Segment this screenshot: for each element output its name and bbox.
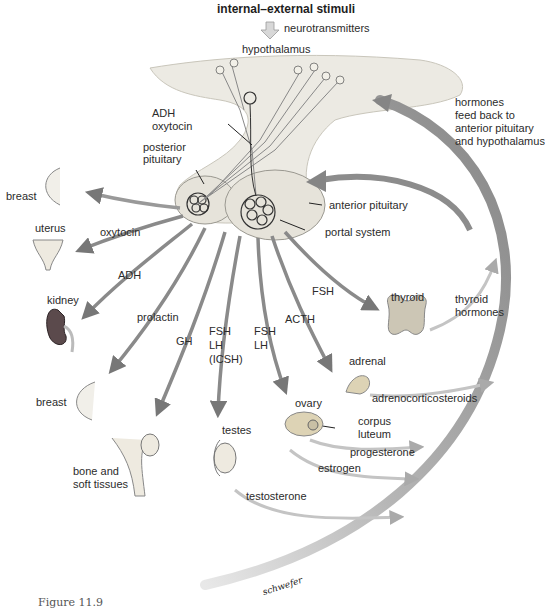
acth-label: ACTH — [285, 313, 315, 326]
feedback-label-3: anterior pituitary — [455, 122, 534, 135]
diagram-title: internal–external stimuli — [217, 3, 355, 16]
adrenal-label: adrenal — [349, 355, 386, 368]
breast-lower-organ — [77, 382, 95, 420]
fsh-thyroid-label: FSH — [312, 285, 334, 298]
kidney-label: kidney — [47, 294, 79, 307]
fsh-male-label: FSH — [209, 325, 231, 338]
neurotransmitters-label: neurotransmitters — [284, 22, 370, 35]
testes-organ — [214, 440, 236, 476]
feedback-label-2: feed back to — [455, 109, 515, 122]
adh-label: ADH — [152, 107, 175, 120]
adrenocorticosteroids-label: adrenocorticosteroids — [372, 392, 477, 405]
hypothalamus-label: hypothalamus — [242, 43, 311, 56]
anterior-pituitary-label: anterior pituitary — [329, 199, 408, 212]
testes-label: testes — [222, 424, 251, 437]
estrogen-label: estrogen — [318, 462, 361, 475]
bone-label-2: soft tissues — [73, 478, 128, 491]
breast-upper-organ — [46, 168, 60, 205]
adh-hormone-label: ADH — [118, 269, 141, 282]
ovary-label: ovary — [295, 397, 322, 410]
prolactin-label: prolactin — [137, 311, 179, 324]
feedback-label-1: hormones — [455, 96, 504, 109]
kidney-organ — [47, 309, 73, 352]
corpus-label: corpus — [358, 415, 391, 428]
pituitary-label: pituitary — [143, 153, 182, 166]
oxytocin-label: oxytocin — [152, 120, 192, 133]
feedback-label-4: and hypothalamus — [455, 135, 545, 148]
stimulus-arrow-icon — [261, 22, 279, 39]
bone-label-1: bone and — [73, 465, 119, 478]
gh-label: GH — [176, 335, 193, 348]
progesterone-label: progesterone — [350, 446, 415, 459]
oxytocin-hormone-label: oxytocin — [100, 226, 140, 239]
uterus-label: uterus — [35, 222, 66, 235]
adrenal-organ — [346, 376, 370, 394]
testosterone-label: testosterone — [246, 490, 307, 503]
breast-lower-label: breast — [36, 396, 67, 409]
uterus-organ — [33, 240, 63, 270]
figure-caption: Figure 11.9 — [38, 596, 103, 609]
lh-male-label: LH — [209, 339, 223, 352]
ovary-organ — [285, 412, 323, 436]
icsh-label: (ICSH) — [209, 353, 243, 366]
luteum-label: luteum — [358, 428, 391, 441]
fsh-female-label: FSH — [254, 325, 276, 338]
portal-system-label: portal system — [325, 226, 390, 239]
breast-upper-label: breast — [6, 190, 37, 203]
thyroid-hormones-label-2: hormones — [455, 306, 504, 319]
thyroid-hormones-label-1: thyroid — [455, 293, 488, 306]
thyroid-label: thyroid — [391, 291, 424, 304]
lh-female-label: LH — [254, 339, 268, 352]
